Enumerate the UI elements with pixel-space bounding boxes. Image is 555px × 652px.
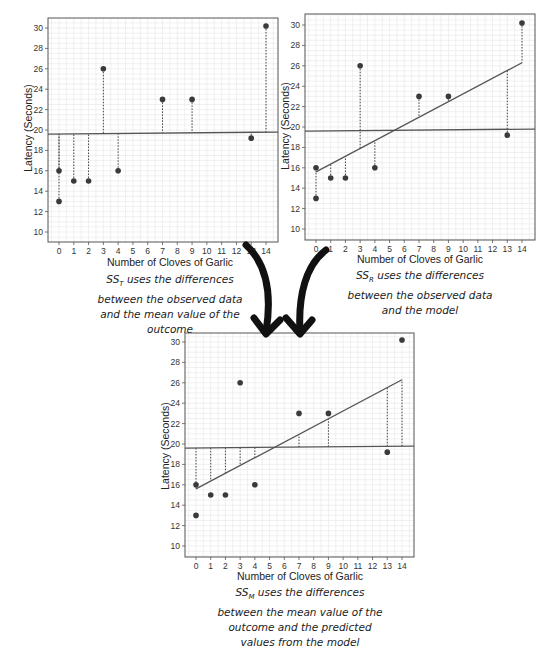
arrow-left-icon: [246, 245, 280, 334]
arrow-right-icon: [286, 250, 326, 334]
curved-arrows: [0, 0, 555, 652]
